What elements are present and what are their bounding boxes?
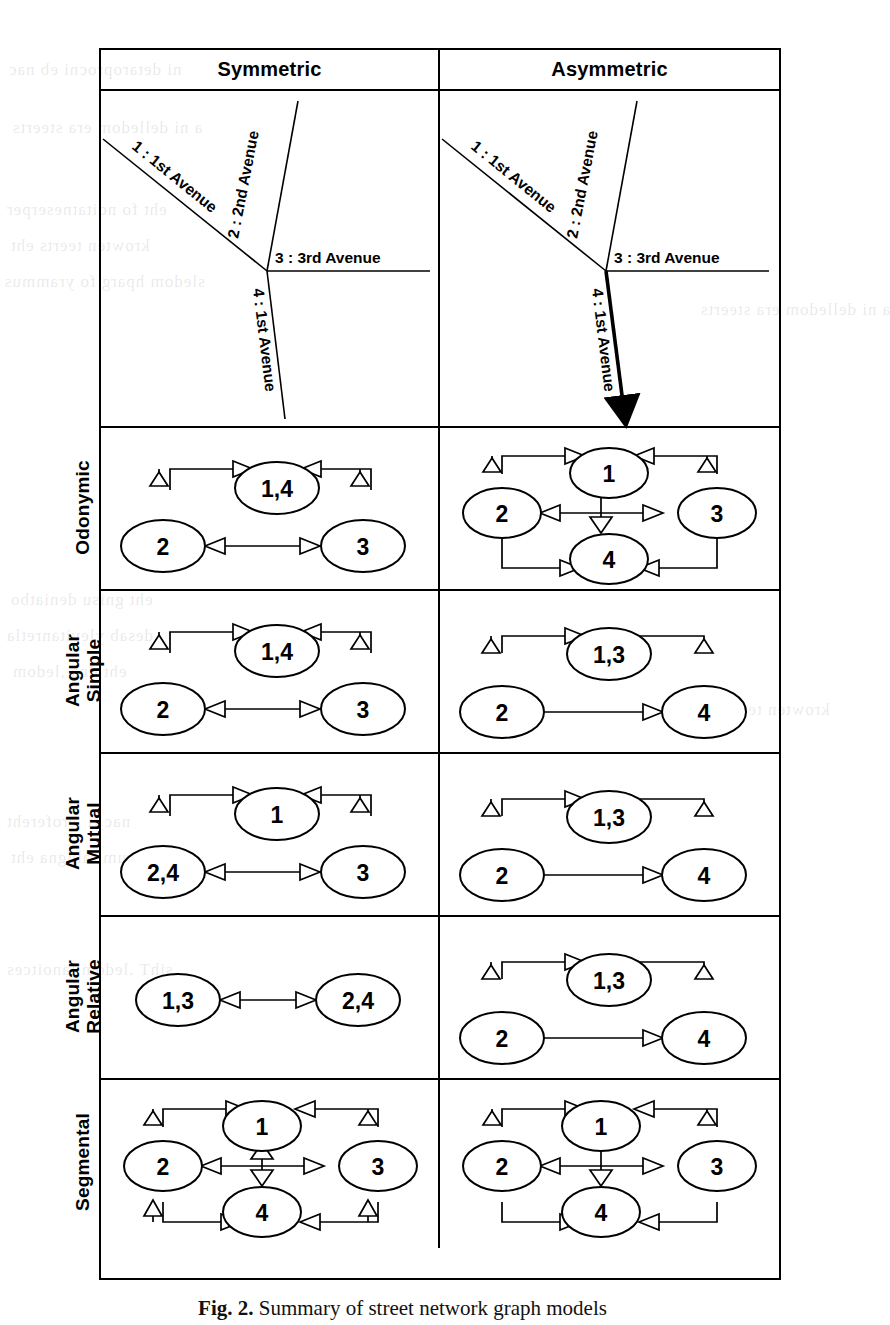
arrowhead xyxy=(639,1214,659,1230)
arrowhead xyxy=(698,1111,716,1125)
street-label-3: 3 : 3rd Avenue xyxy=(275,249,381,266)
arrowhead xyxy=(695,639,713,653)
graph-angular-mutual-asymmetric: 1,3 2 4 xyxy=(440,754,779,915)
arrowhead xyxy=(482,639,500,653)
graph-node-label: 2 xyxy=(496,1154,509,1180)
arrowhead xyxy=(359,1111,377,1125)
arrowhead xyxy=(643,867,663,883)
arrowhead xyxy=(150,472,168,486)
column-header-asymmetric: Asymmetric xyxy=(440,50,779,89)
graph-node-label: 2,4 xyxy=(147,860,179,886)
arrowhead xyxy=(590,517,612,533)
arrowhead xyxy=(540,505,560,521)
row-label-text-line1: Angular xyxy=(62,634,83,707)
arrowhead xyxy=(590,1170,612,1186)
graph-node-label: 2 xyxy=(496,1026,509,1052)
row-label-text-line1: Angular xyxy=(62,960,83,1033)
graph-node-label: 4 xyxy=(698,863,711,889)
row-label-text: Odonymic xyxy=(72,460,93,555)
street-label-2: 2 : 2nd Avenue xyxy=(224,129,262,240)
graph-node-label: 1 xyxy=(271,802,284,828)
figure-caption-label: Fig. 2. xyxy=(198,1296,253,1320)
graph-angular-relative-symmetric: 1,3 2,4 xyxy=(101,917,440,1078)
graph-node-label: 2 xyxy=(157,697,170,723)
graph-node-label: 4 xyxy=(698,700,711,726)
street-label-1: 1 : 1st Avenue xyxy=(468,137,560,216)
arrowhead xyxy=(698,458,716,472)
graph-row-angular-relative: 1,3 2,4 1,3 2 xyxy=(101,917,779,1080)
map-row: 1 : 1st Avenue 2 : 2nd Avenue 3 : 3rd Av… xyxy=(101,91,779,428)
arrowhead xyxy=(351,472,369,486)
figure-caption-text: Summary of street network graph models xyxy=(259,1296,607,1320)
comparison-table: Symmetric Asymmetric 1 : 1st Ave xyxy=(99,48,781,1280)
table-header-row: Symmetric Asymmetric xyxy=(101,50,779,91)
arrowhead xyxy=(300,1214,320,1230)
arrowhead xyxy=(300,864,320,880)
graph-node-label: 4 xyxy=(698,1026,711,1052)
arrowhead xyxy=(205,538,225,554)
column-header-text: Asymmetric xyxy=(551,58,668,81)
arrowhead xyxy=(482,965,500,979)
graph-node-label: 2 xyxy=(157,534,170,560)
row-label-text-line1: Angular xyxy=(62,797,83,870)
graph-node-label: 1 xyxy=(256,1114,269,1140)
graph-angular-relative-asymmetric: 1,3 2 4 xyxy=(440,917,779,1078)
arrowhead xyxy=(144,1111,162,1125)
street-label-1: 1 : 1st Avenue xyxy=(129,137,221,216)
graph-node-label: 4 xyxy=(256,1200,269,1226)
graph-node-label: 1,4 xyxy=(261,476,293,502)
arrowhead xyxy=(351,798,369,812)
street-label-2: 2 : 2nd Avenue xyxy=(563,129,601,240)
graph-node-label: 3 xyxy=(711,501,724,527)
graph-node-label: 4 xyxy=(595,1200,608,1226)
arrowhead xyxy=(483,1111,501,1125)
graph-node-label: 3 xyxy=(711,1154,724,1180)
graph-row-odonymic: 1,4 2 3 xyxy=(101,428,779,591)
graph-angular-simple-asymmetric: 1,3 2 4 xyxy=(440,591,779,752)
graph-node-label: 1 xyxy=(603,461,616,487)
arrowhead xyxy=(351,635,369,649)
arrowhead xyxy=(695,965,713,979)
arrowhead xyxy=(220,992,240,1008)
arrowhead xyxy=(300,701,320,717)
row-label-text: Segmental xyxy=(72,1113,93,1211)
arrowhead xyxy=(483,458,501,472)
arrowhead xyxy=(643,1030,663,1046)
graph-node-label: 3 xyxy=(357,697,370,723)
graph-node-label: 1,3 xyxy=(593,968,625,994)
arrowhead xyxy=(695,802,713,816)
graph-node-label: 4 xyxy=(603,547,616,573)
graph-row-angular-simple: 1,4 2 3 xyxy=(101,591,779,754)
arrowhead xyxy=(304,1158,324,1174)
graph-node-label: 1,3 xyxy=(593,805,625,831)
arrowhead xyxy=(205,864,225,880)
arrowhead xyxy=(251,1170,273,1186)
graph-segmental-symmetric: 1 2 3 4 xyxy=(101,1080,440,1248)
graph-node-label: 2,4 xyxy=(342,988,374,1014)
column-header-text: Symmetric xyxy=(217,58,321,81)
arrowhead xyxy=(643,1158,663,1174)
map-asymmetric: 1 : 1st Avenue 2 : 2nd Avenue 3 : 3rd Av… xyxy=(440,91,779,426)
graph-node-label: 2 xyxy=(496,501,509,527)
graph-node-label: 1,4 xyxy=(261,639,293,665)
arrowhead xyxy=(205,701,225,717)
graph-row-segmental: 1 2 3 4 xyxy=(101,1080,779,1248)
street-label-3: 3 : 3rd Avenue xyxy=(614,249,720,266)
arrowhead xyxy=(359,1200,377,1216)
graph-segmental-asymmetric: 1 2 3 4 xyxy=(440,1080,779,1248)
graph-node-label: 1,3 xyxy=(593,642,625,668)
arrowhead xyxy=(201,1158,221,1174)
graph-node-label: 3 xyxy=(357,860,370,886)
arrowhead xyxy=(540,1158,560,1174)
arrowhead xyxy=(300,538,320,554)
figure-caption: Fig. 2. Summary of street network graph … xyxy=(0,1296,805,1321)
street-line-2 xyxy=(267,101,298,271)
graph-odonymic-asymmetric: 1 2 3 4 xyxy=(440,428,779,589)
column-header-symmetric: Symmetric xyxy=(101,50,440,89)
map-symmetric: 1 : 1st Avenue 2 : 2nd Avenue 3 : 3rd Av… xyxy=(101,91,440,426)
arrowhead xyxy=(482,802,500,816)
arrowhead xyxy=(296,992,316,1008)
graph-node-label: 2 xyxy=(496,863,509,889)
arrowhead xyxy=(643,505,663,521)
